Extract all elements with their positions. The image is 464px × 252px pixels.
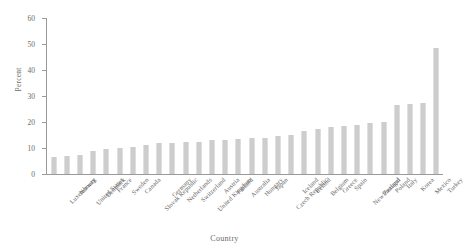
bar [328, 127, 334, 174]
y-tick-label: 40 [28, 66, 36, 75]
bar [130, 147, 136, 174]
x-axis-label: Country [0, 234, 449, 243]
bar [51, 157, 57, 174]
y-axis-label: Percent [14, 50, 23, 110]
y-tick-label: 20 [28, 118, 36, 127]
bar [90, 151, 96, 174]
bar [209, 140, 215, 174]
plot-area: 0102030405060 [47, 18, 443, 174]
bar [394, 105, 400, 174]
bar [143, 145, 149, 174]
bar [341, 126, 347, 174]
y-tick-label: 60 [28, 14, 36, 23]
bar [433, 48, 439, 174]
bar [196, 142, 202, 175]
bar [381, 122, 387, 174]
bar [222, 140, 228, 174]
bar [235, 139, 241, 174]
bar [249, 138, 255, 174]
bar [103, 149, 109, 174]
bar [420, 103, 426, 175]
bar [117, 148, 123, 174]
y-tick-label: 50 [28, 40, 36, 49]
x-axis-tick-labels: LuxembourgNorwayUnited StatesDenmarkFran… [47, 176, 443, 234]
bar [275, 136, 281, 174]
y-tick-label: 10 [28, 144, 36, 153]
bar [169, 143, 175, 174]
y-tick-mark: 0 [42, 174, 47, 175]
bar [156, 143, 162, 174]
bar [301, 131, 307, 174]
bar [183, 142, 189, 175]
bar [367, 123, 373, 174]
bar [288, 135, 294, 174]
bar [354, 125, 360, 174]
bar [77, 155, 83, 175]
bar [64, 156, 70, 174]
x-axis-line [46, 174, 443, 175]
y-tick-label: 0 [31, 170, 35, 179]
bar-series [47, 18, 443, 174]
bar [262, 138, 268, 174]
bar [407, 104, 413, 174]
bar [315, 129, 321, 175]
y-tick-label: 30 [28, 92, 36, 101]
